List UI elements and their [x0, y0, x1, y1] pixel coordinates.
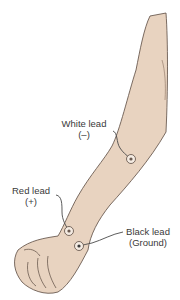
electrode-red [65, 227, 74, 236]
white-lead-label: White lead (–) [56, 118, 112, 140]
black-lead-name: Black lead [122, 226, 174, 237]
red-lead-name: Red lead [8, 185, 54, 196]
white-lead-name: White lead [56, 118, 112, 129]
black-lead-label: Black lead (Ground) [122, 226, 174, 248]
red-lead-label: Red lead (+) [8, 185, 54, 207]
arm-shape [15, 13, 168, 293]
arm-illustration [0, 0, 180, 300]
black-lead-polarity: (Ground) [122, 237, 174, 248]
white-lead-polarity: (–) [56, 129, 112, 140]
red-lead-polarity: (+) [8, 196, 54, 207]
electrode-white [127, 155, 136, 164]
electrode-black [75, 242, 84, 251]
